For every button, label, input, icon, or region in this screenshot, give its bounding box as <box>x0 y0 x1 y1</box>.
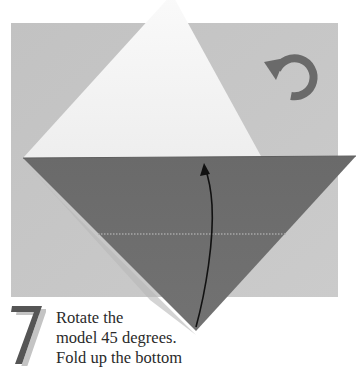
instruction-text: Rotate the model 45 degrees. Fold up the… <box>56 308 182 368</box>
instruction-line: model 45 degrees. <box>56 328 182 348</box>
step-number: 7 <box>10 306 46 366</box>
instruction-line: Fold up the bottom <box>56 348 182 368</box>
instruction-line: Rotate the <box>56 308 182 328</box>
